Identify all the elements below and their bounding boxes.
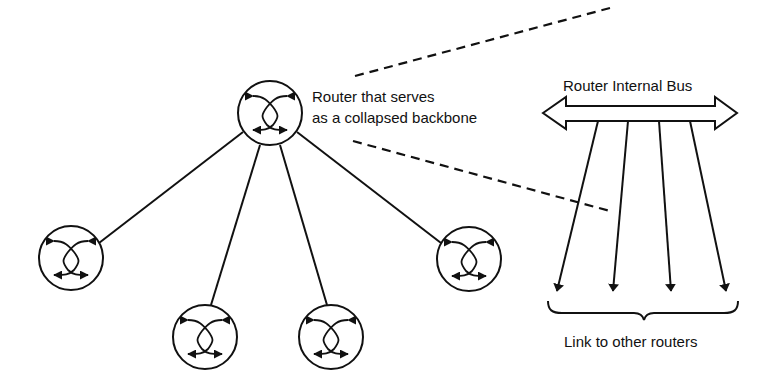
router-bottom-right (299, 305, 363, 369)
link-arrow (659, 121, 671, 291)
diagram-canvas: Router that serves as a collapsed backbo… (0, 0, 776, 390)
link-to-bottom-left-router (211, 145, 260, 305)
link-to-right-router (297, 132, 441, 243)
link-to-bottom-right-router (280, 145, 327, 305)
zoom-line-bottom (353, 141, 610, 211)
router-icon (39, 226, 103, 290)
central-router-label-line1: Router that serves (312, 88, 435, 105)
link-arrow (690, 121, 726, 291)
tree-links (99, 132, 441, 305)
router-bottom-left (173, 305, 237, 369)
router-icon (173, 305, 237, 369)
router-icon (299, 305, 363, 369)
bus-label: Router Internal Bus (563, 77, 692, 94)
bus-links (557, 121, 726, 291)
curly-brace-icon (548, 301, 738, 320)
links-label: Link to other routers (564, 333, 697, 350)
router-left (39, 226, 103, 290)
router-icon (437, 227, 501, 291)
double-headed-arrow-icon (543, 97, 737, 129)
link-to-left-router (99, 132, 243, 243)
central-router-label-line2: as a collapsed backbone (312, 109, 477, 126)
central-router (238, 81, 302, 145)
router-right (437, 227, 501, 291)
zoom-line-top (355, 8, 610, 76)
link-arrow (613, 121, 628, 291)
router-icon (238, 81, 302, 145)
